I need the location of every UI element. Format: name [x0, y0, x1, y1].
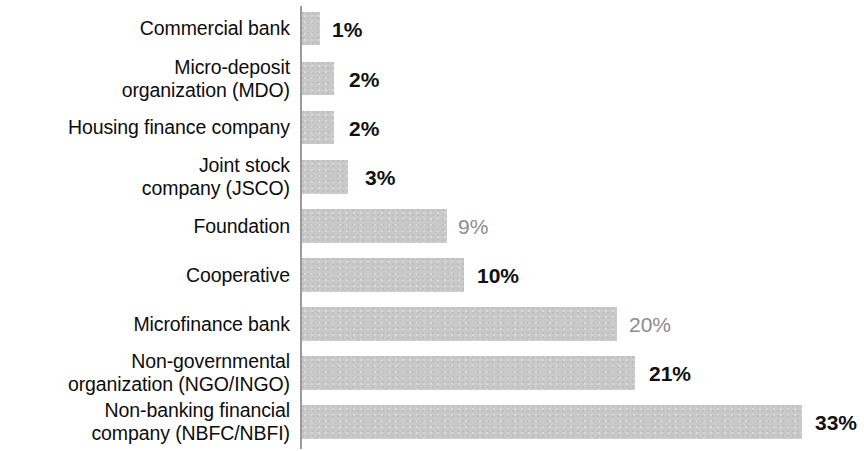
bar-row: Non-banking financial company (NBFC/NBFI… [0, 405, 864, 439]
bar [302, 209, 447, 243]
bar-value-label: 3% [365, 167, 395, 188]
bar-row: Micro-deposit organization (MDO) 2% [0, 62, 864, 95]
bar-value-label: 1% [332, 18, 362, 39]
bar-value-label: 20% [629, 314, 671, 335]
category-label: Joint stock company (JSCO) [0, 154, 290, 200]
bar-row: Joint stock company (JSCO) 3% [0, 160, 864, 194]
bar-row: Commercial bank 1% [0, 12, 864, 45]
category-label: Non-governmental organization (NGO/INGO) [0, 350, 290, 396]
bar [302, 307, 617, 341]
bar [302, 111, 334, 144]
bar-value-label: 9% [458, 216, 488, 237]
category-label: Commercial bank [0, 17, 290, 40]
bar [302, 356, 635, 390]
bar [302, 405, 802, 439]
bar-value-label: 2% [349, 117, 379, 138]
bar-row: Microfinance bank 20% [0, 307, 864, 341]
category-label: Housing finance company [0, 116, 290, 139]
bar-value-label: 33% [815, 412, 857, 433]
bar-value-label: 10% [477, 265, 519, 286]
category-label: Foundation [0, 215, 290, 238]
bar [302, 160, 348, 194]
category-label: Micro-deposit organization (MDO) [0, 56, 290, 102]
category-label: Cooperative [0, 264, 290, 287]
bar [302, 258, 464, 292]
bar-value-label: 2% [349, 68, 379, 89]
bar-row: Foundation 9% [0, 209, 864, 243]
bar-chart: Commercial bank 1% Micro-deposit organiz… [0, 0, 864, 451]
category-label: Non-banking financial company (NBFC/NBFI… [0, 399, 290, 445]
bar-row: Non-governmental organization (NGO/INGO)… [0, 356, 864, 390]
category-label: Microfinance bank [0, 313, 290, 336]
bar-row: Housing finance company 2% [0, 111, 864, 144]
bar-row: Cooperative 10% [0, 258, 864, 292]
bar [302, 62, 334, 95]
bar [302, 12, 320, 45]
bar-value-label: 21% [649, 363, 691, 384]
